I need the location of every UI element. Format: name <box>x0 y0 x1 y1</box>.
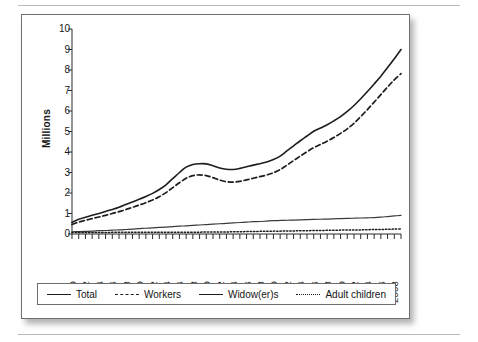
legend-label: Total <box>76 289 97 300</box>
chart-legend: Total Workers Widow(er)s Adult children <box>37 283 396 305</box>
series-line-workers <box>72 74 401 225</box>
legend-swatch-solid-icon <box>47 291 71 297</box>
legend-swatch-dotted-icon <box>296 291 320 297</box>
legend-swatch-solid-thin-icon <box>199 291 223 297</box>
legend-item-adult-children: Adult children <box>296 289 386 300</box>
legend-label: Widow(er)s <box>228 289 279 300</box>
legend-label: Adult children <box>325 289 386 300</box>
legend-label: Workers <box>144 289 181 300</box>
legend-item-total: Total <box>47 289 97 300</box>
page-rule-top <box>18 5 460 6</box>
series-line-total <box>72 50 401 223</box>
legend-swatch-dashed-icon <box>115 291 139 297</box>
figure-box: Millions 012345678910 196019621964196619… <box>21 14 410 319</box>
legend-item-workers: Workers <box>115 289 181 300</box>
page-rule-bottom <box>18 334 460 335</box>
series-line-widow-er-s <box>72 215 401 231</box>
chart-canvas: Millions 012345678910 196019621964196619… <box>22 15 411 320</box>
legend-item-widowers: Widow(er)s <box>199 289 279 300</box>
